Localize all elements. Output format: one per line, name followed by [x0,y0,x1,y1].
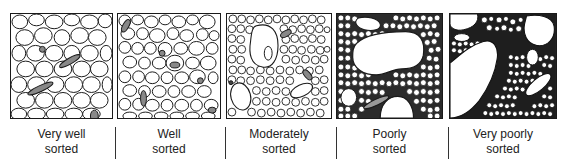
label-line2: sorted [10,142,113,157]
grains-illustration-poorly [337,14,442,118]
panel-well-sorted [117,13,221,119]
label-line2: sorted [226,142,332,157]
label-line1: Moderately [226,127,332,142]
panel-very-poorly-sorted [449,13,557,119]
panel-very-well-sorted [10,13,113,119]
panel-moderately-sorted [226,13,332,119]
label-poorly-sorted: Poorly sorted [336,127,443,157]
label-line1: Poorly [336,127,443,142]
label-line1: Well [117,127,221,142]
label-line1: Very poorly [449,127,557,142]
label-line1: Very well [10,127,113,142]
label-well-sorted: Well sorted [117,127,221,157]
label-moderately-sorted: Moderately sorted [226,127,332,157]
grains-illustration-very-well [11,14,112,118]
grains-illustration-very-poorly [450,14,556,118]
grains-illustration-well [118,14,220,118]
grains-illustration-moderately [227,14,331,118]
label-very-well-sorted: Very well sorted [10,127,113,157]
panel-poorly-sorted [336,13,443,119]
label-divider [115,127,116,159]
label-very-poorly-sorted: Very poorly sorted [449,127,557,157]
label-line2: sorted [449,142,557,157]
label-line2: sorted [336,142,443,157]
label-line2: sorted [117,142,221,157]
